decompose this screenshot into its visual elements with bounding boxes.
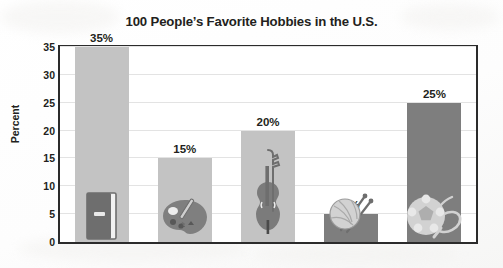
bar-group: 35%: [75, 47, 129, 242]
plot-area: 35% 15% 20% 5%: [60, 47, 476, 242]
bar-value-label: 5%: [343, 199, 360, 211]
y-axis-title: Percent: [9, 89, 21, 159]
bar-group: 5%: [324, 47, 378, 242]
bar-group: 20%: [241, 47, 295, 242]
bar[interactable]: 35%: [75, 47, 129, 242]
y-axis-tick-label: 0: [27, 237, 55, 248]
bar[interactable]: 15%: [158, 158, 212, 242]
chart-page: 100 People’s Favorite Hobbies in the U.S…: [0, 0, 503, 268]
y-axis-tick-label: 20: [27, 125, 55, 136]
bar[interactable]: 25%: [407, 103, 461, 242]
paint-palette-icon: [159, 194, 211, 240]
bar-group: 25%: [407, 47, 461, 242]
y-axis-tick-label: 15: [27, 153, 55, 164]
paper-texture: [250, 244, 460, 264]
bar-value-label: 15%: [173, 143, 196, 155]
y-axis-tick-label: 25: [27, 97, 55, 108]
y-axis-tick-label: 5: [27, 209, 55, 220]
bar[interactable]: 20%: [241, 131, 295, 242]
bar-value-label: 35%: [90, 32, 113, 44]
bar-group: 15%: [158, 47, 212, 242]
plot-frame: 35% 15% 20% 5%: [58, 45, 478, 244]
chart-title: 100 People’s Favorite Hobbies in the U.S…: [0, 14, 503, 29]
y-axis-tick-label: 30: [27, 70, 55, 81]
sports-ball-icon: [403, 186, 465, 240]
violin-icon: [246, 144, 290, 240]
y-axis-tick-label: 10: [27, 181, 55, 192]
y-axis-tick-label: 35: [27, 42, 55, 53]
bar[interactable]: 5%: [324, 214, 378, 242]
bar-value-label: 20%: [256, 116, 279, 128]
book-icon: [85, 192, 119, 240]
bar-value-label: 25%: [423, 88, 446, 100]
yarn-ball-icon: [321, 188, 381, 240]
y-axis-tick-labels: 05101520253035: [22, 45, 55, 242]
